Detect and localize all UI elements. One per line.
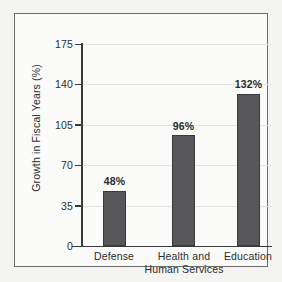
y-tick-label-group: 175 140 105 70 35 0 (23, 14, 73, 282)
x-category-label-defense: Defense (76, 250, 152, 263)
y-tick-140 (75, 84, 82, 85)
x-axis-line (72, 246, 272, 248)
y-tick-label-70: 70 (25, 159, 73, 171)
y-tick-label-0: 0 (25, 240, 73, 252)
bar-value-education: 132% (223, 78, 274, 90)
plot-area: 48% 96% 132% (82, 44, 272, 246)
figure-canvas: Growth in Fiscal Years (%) 48% 96% 132% (0, 0, 282, 282)
y-tick-0 (75, 246, 82, 247)
x-category-label-education: Education (210, 250, 282, 263)
bar-health-and-human-services[interactable] (172, 135, 195, 246)
y-tick-label-140: 140 (25, 78, 73, 90)
y-tick-105 (75, 124, 82, 125)
gridline-175 (82, 44, 272, 45)
bar-value-defense: 48% (89, 175, 140, 187)
bar-defense[interactable] (103, 191, 126, 246)
chart-frame: Growth in Fiscal Years (%) 48% 96% 132% (14, 13, 268, 267)
bar-value-health-and-human-services: 96% (158, 120, 209, 132)
y-tick-175 (75, 44, 82, 45)
y-axis-line (81, 43, 83, 247)
bar-education[interactable] (237, 94, 260, 246)
y-tick-70 (75, 165, 82, 166)
y-tick-35 (75, 205, 82, 206)
y-tick-label-35: 35 (25, 200, 73, 212)
y-tick-label-175: 175 (25, 38, 73, 50)
y-tick-label-105: 105 (25, 119, 73, 131)
